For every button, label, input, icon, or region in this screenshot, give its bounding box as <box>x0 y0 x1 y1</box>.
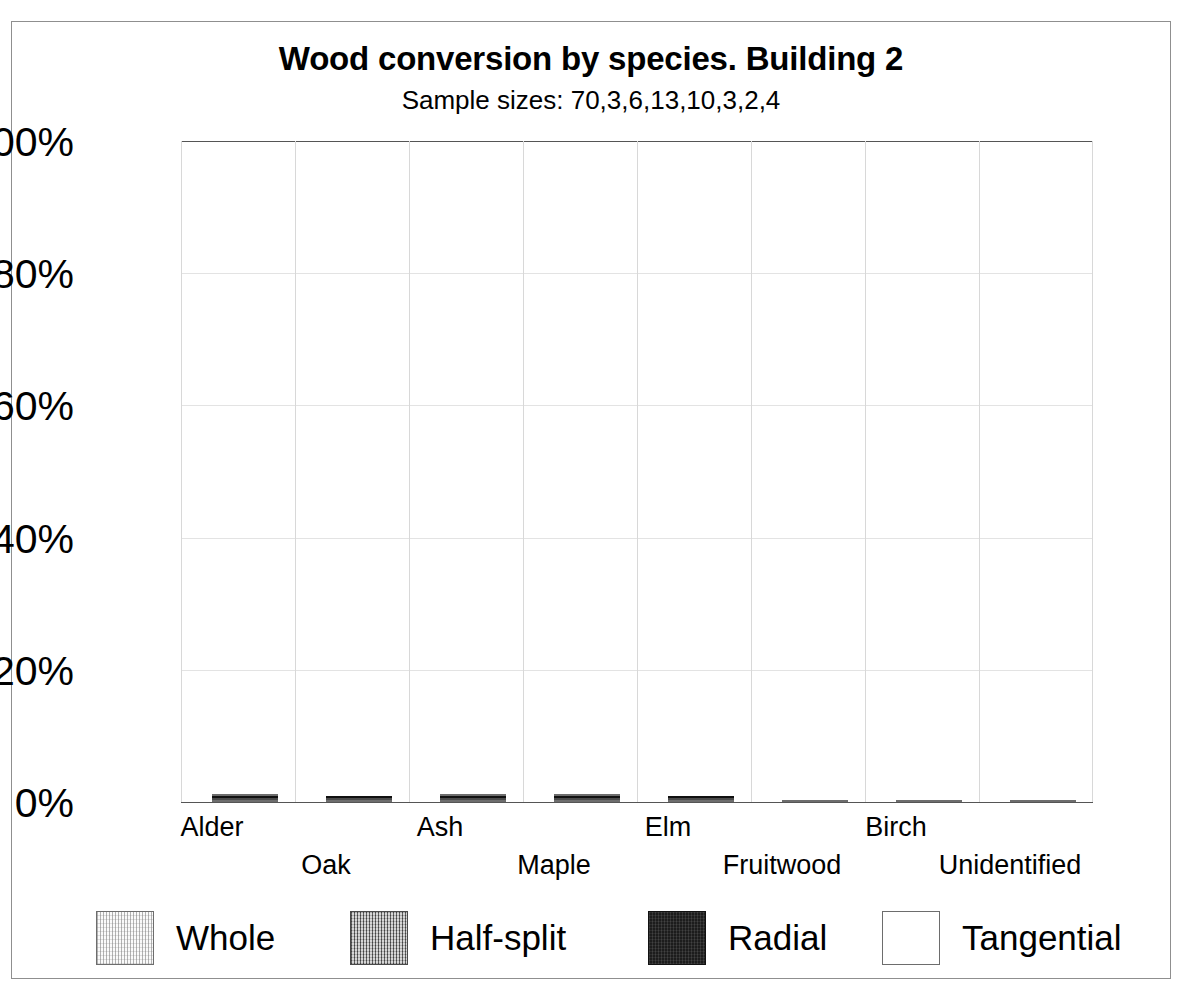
legend-swatch-radial-icon <box>648 911 706 965</box>
axis-line-bottom <box>181 802 1093 803</box>
legend-swatch-half-split-icon <box>350 911 408 965</box>
bar-alder <box>212 794 278 802</box>
bar-unidentified <box>1010 800 1076 802</box>
bar-ash <box>440 794 506 802</box>
plot-area <box>181 141 1093 802</box>
gridline-vertical <box>751 141 752 802</box>
y-axis-tick-20: 20% <box>0 651 74 692</box>
legend-label-whole: Whole <box>176 918 275 958</box>
legend-item-radial[interactable]: Radial <box>648 907 827 969</box>
x-axis-label-maple: Maple <box>439 850 669 880</box>
x-axis-label-elm: Elm <box>553 812 783 842</box>
legend-label-half-split: Half-split <box>430 918 566 958</box>
x-axis-label-birch: Birch <box>781 812 1011 842</box>
bar-segment-whole <box>782 800 848 802</box>
legend-swatch-tangential-icon <box>882 911 940 965</box>
legend-swatch-whole-icon <box>96 911 154 965</box>
bar-oak <box>326 796 392 802</box>
x-axis-label-ash: Ash <box>325 812 555 842</box>
chart-title: Wood conversion by species. Building 2 <box>12 40 1170 78</box>
gridline-vertical <box>295 141 296 802</box>
bar-elm <box>668 796 734 802</box>
bar-birch <box>896 800 962 802</box>
bar-segment-whole <box>1010 800 1076 802</box>
bar-segment-whole <box>212 800 278 802</box>
gridline-vertical <box>865 141 866 802</box>
y-axis-tick-100: 100% <box>0 122 74 163</box>
gridline-vertical <box>523 141 524 802</box>
chart-frame: Wood conversion by species. Building 2 S… <box>11 21 1171 979</box>
bar-maple <box>554 794 620 802</box>
y-axis-tick-60: 60% <box>0 386 74 427</box>
y-axis-tick-40: 40% <box>0 519 74 560</box>
legend-item-half-split[interactable]: Half-split <box>350 907 566 969</box>
legend-item-tangential[interactable]: Tangential <box>882 907 1122 969</box>
x-axis-label-oak: Oak <box>211 850 441 880</box>
x-axis-label-unidentified: Unidentified <box>895 850 1125 880</box>
legend-item-whole[interactable]: Whole <box>96 907 275 969</box>
legend-label-tangential: Tangential <box>962 918 1122 958</box>
gridline-vertical <box>181 141 182 802</box>
y-axis-tick-0: 0% <box>0 783 74 824</box>
bar-segment-whole <box>440 800 506 802</box>
bar-fruitwood <box>782 800 848 802</box>
bar-segment-whole <box>668 800 734 802</box>
gridline-vertical <box>637 141 638 802</box>
gridline-vertical <box>409 141 410 802</box>
bar-segment-whole <box>554 800 620 802</box>
x-axis-label-fruitwood: Fruitwood <box>667 850 897 880</box>
chart-subtitle: Sample sizes: 70,3,6,13,10,3,2,4 <box>12 85 1170 116</box>
chart-legend: Whole Half-split Radial Tangential <box>96 907 1116 969</box>
bar-segment-whole <box>896 800 962 802</box>
y-axis-tick-80: 80% <box>0 254 74 295</box>
bar-segment-whole <box>326 800 392 802</box>
x-axis-label-alder: Alder <box>97 812 327 842</box>
gridline-vertical <box>979 141 980 802</box>
gridline-vertical <box>1092 141 1093 802</box>
legend-label-radial: Radial <box>728 918 827 958</box>
